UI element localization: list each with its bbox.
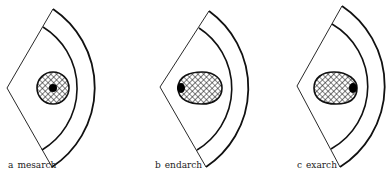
label-exarch: cexarch — [297, 160, 337, 170]
protoxylem — [177, 83, 185, 93]
panel-endarch — [160, 11, 248, 167]
label-letter: a — [8, 160, 13, 170]
panel-exarch — [297, 6, 385, 167]
label-letter: c — [297, 160, 302, 170]
label-letter: b — [155, 160, 161, 170]
label-mesarch: amesarch — [8, 160, 56, 170]
label-endarch: bendarch — [155, 160, 202, 170]
xylem-maturation-diagram — [0, 0, 390, 176]
label-text: mesarch — [17, 160, 56, 170]
label-text: endarch — [165, 160, 202, 170]
protoxylem — [349, 83, 357, 93]
label-text: exarch — [306, 160, 337, 170]
protoxylem — [49, 84, 57, 92]
panel-mesarch — [7, 9, 95, 167]
